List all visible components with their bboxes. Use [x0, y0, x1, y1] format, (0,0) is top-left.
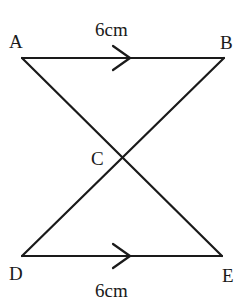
point-label-a: A [9, 32, 23, 51]
point-label-c: C [91, 149, 104, 168]
length-label-ab: 6cm [95, 20, 128, 39]
point-label-e: E [222, 266, 234, 285]
length-label-de: 6cm [95, 281, 128, 300]
point-label-d: D [9, 264, 23, 283]
point-label-b: B [220, 33, 233, 52]
diagram-canvas: 6cm A B C D E 6cm [0, 0, 249, 306]
diagram-figure [0, 0, 249, 306]
